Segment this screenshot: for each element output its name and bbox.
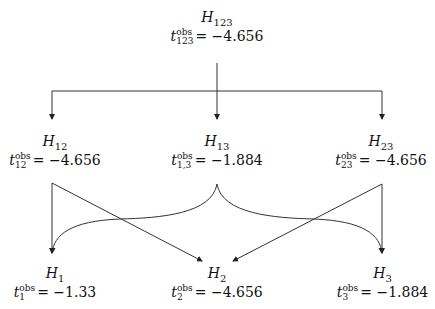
node-label: H23 bbox=[326, 134, 435, 152]
node-label: H2 bbox=[162, 266, 272, 284]
edge-h13-h1 bbox=[52, 184, 217, 253]
edge-h12-h2 bbox=[52, 183, 202, 261]
node-statistic: tobs123= −4.656 bbox=[157, 28, 277, 46]
node-h123: H123 tobs123= −4.656 bbox=[157, 10, 277, 46]
edge-h13-h3 bbox=[217, 184, 382, 253]
node-statistic: tobs1= −1.33 bbox=[5, 284, 105, 302]
node-statistic: tobs12= −4.656 bbox=[0, 152, 110, 170]
node-statistic: tobs1,3= −1.884 bbox=[157, 152, 277, 170]
node-h13: H13 tobs1,3= −1.884 bbox=[157, 134, 277, 170]
node-label: H3 bbox=[330, 266, 435, 284]
node-label: H1 bbox=[5, 266, 105, 284]
node-h12: H12 tobs12= −4.656 bbox=[0, 134, 110, 170]
edge-h23-h2 bbox=[233, 184, 382, 261]
node-h2: H2 tobs2= −4.656 bbox=[162, 266, 272, 302]
node-label: H123 bbox=[157, 10, 277, 28]
node-h3: H3 tobs3= −1.884 bbox=[330, 266, 435, 302]
node-statistic: tobs23= −4.656 bbox=[326, 152, 435, 170]
node-label: H13 bbox=[157, 134, 277, 152]
node-statistic: tobs3= −1.884 bbox=[330, 284, 435, 302]
node-label: H12 bbox=[0, 134, 110, 152]
node-h1: H1 tobs1= −1.33 bbox=[5, 266, 105, 302]
node-h23: H23 tobs23= −4.656 bbox=[326, 134, 435, 170]
node-statistic: tobs2= −4.656 bbox=[162, 284, 272, 302]
